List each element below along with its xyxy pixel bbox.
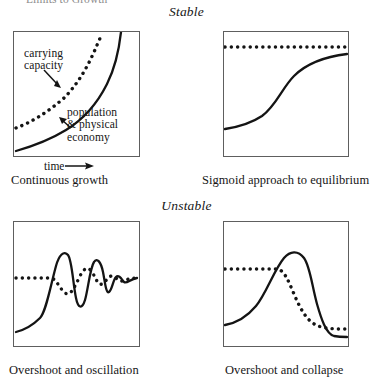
annotation-population: population & physical economy xyxy=(67,106,118,143)
caption-collapse: Overshoot and collapse xyxy=(225,363,343,378)
annotation-carrying-capacity-line1: carrying xyxy=(24,47,63,59)
section-heading-unstable: Unstable xyxy=(0,198,373,214)
sigmoid-plot xyxy=(224,32,348,156)
caption-continuous-growth: Continuous growth xyxy=(11,173,108,188)
annotation-carrying-capacity-line2: capacity xyxy=(24,59,63,71)
annotation-population-line2: & physical xyxy=(67,118,118,130)
right-arrow-icon xyxy=(65,161,95,171)
time-axis-label: time xyxy=(44,160,95,172)
series-population-solid xyxy=(225,252,347,337)
cut-off-heading-fragment: Limits to Growth xyxy=(26,0,176,3)
series-carrying-capacity-dotted xyxy=(225,269,347,329)
series-population-solid xyxy=(225,54,347,129)
section-heading-stable: Stable xyxy=(0,4,373,20)
annotation-population-line3: economy xyxy=(67,131,118,143)
annotation-population-line1: population xyxy=(67,106,118,118)
caption-sigmoid: Sigmoid approach to equilibrium xyxy=(202,173,369,188)
chart-panel-sigmoid xyxy=(223,31,349,157)
time-axis-label-text: time xyxy=(44,160,64,172)
chart-panel-collapse xyxy=(223,221,349,347)
chart-panel-oscillation xyxy=(13,221,140,347)
collapse-plot xyxy=(224,222,348,346)
limits-to-growth-figure: Limits to Growth Stable Unstable carryin… xyxy=(0,0,373,382)
caption-oscillation: Overshoot and oscillation xyxy=(9,363,139,378)
series-carrying-capacity-dotted xyxy=(16,269,137,294)
oscillation-plot xyxy=(14,222,139,346)
annotation-carrying-capacity: carrying capacity xyxy=(24,47,63,72)
series-population-solid xyxy=(16,253,137,332)
